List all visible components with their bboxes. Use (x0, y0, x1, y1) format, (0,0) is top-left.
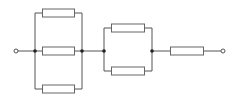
resistors (43, 9, 204, 93)
junction-node-3 (102, 49, 106, 53)
resistor-r5 (112, 67, 145, 75)
resistor-r4 (112, 24, 145, 32)
resistor-r6 (171, 47, 204, 55)
junction-node-4 (150, 49, 154, 53)
output-terminal-icon (221, 49, 225, 53)
resistor-r3 (43, 85, 75, 93)
junction-node-2 (80, 49, 84, 53)
circuit-diagram (0, 0, 238, 104)
resistor-r2 (43, 47, 75, 55)
input-terminal-icon (14, 49, 18, 53)
resistor-r1 (43, 9, 75, 17)
junction-node-1 (33, 49, 37, 53)
